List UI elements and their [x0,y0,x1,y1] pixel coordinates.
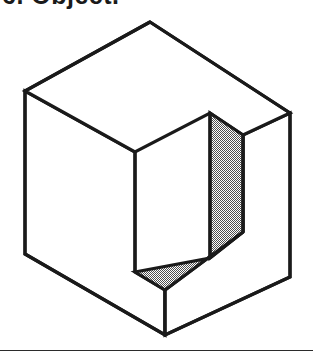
isometric-cube-figure [0,0,313,361]
figure-page: 6. Object. [0,0,313,361]
bottom-divider-rule [0,350,313,351]
